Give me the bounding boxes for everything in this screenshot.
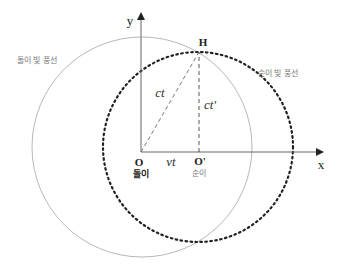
vt-label: vt <box>166 155 175 168</box>
hypotenuse-ct <box>141 52 199 152</box>
moving-circle-label: 순이 빛 풍선 <box>258 70 298 78</box>
ct-label: ct <box>155 86 164 99</box>
ct-prime-label: ct' <box>204 98 216 111</box>
moving-origin-caption-suni: 순이 <box>192 170 206 178</box>
x-axis-label: x <box>318 158 325 171</box>
moving-origin-label: O' <box>194 156 206 167</box>
diagram-canvas <box>0 0 338 278</box>
y-axis-label: y <box>127 14 134 27</box>
point-h-label: H <box>199 37 208 48</box>
origin-o-label: O <box>135 157 144 168</box>
stationary-circle-label: 돌이 빛 풍선 <box>17 57 57 65</box>
origin-caption-dori: 돌이 <box>133 170 149 179</box>
moving-light-circle <box>103 52 293 242</box>
